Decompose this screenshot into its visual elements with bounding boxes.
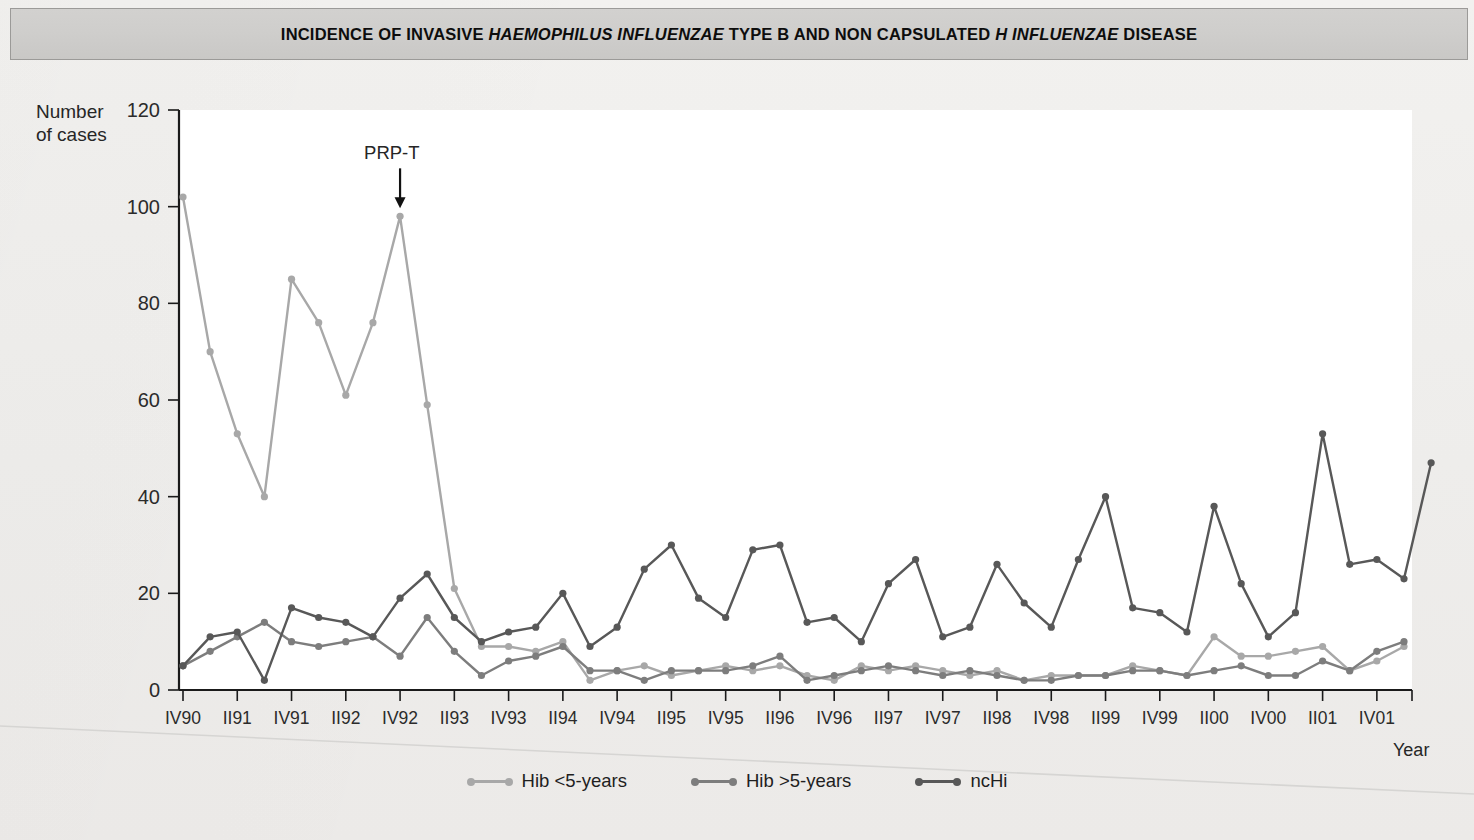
x-tick-label: IV92 [382,708,418,728]
data-point [559,590,566,597]
data-point [1156,609,1163,616]
data-point [641,566,648,573]
data-point [288,276,295,283]
series-hib-5-years [179,614,1407,684]
data-point [1129,604,1136,611]
data-point [885,580,892,587]
data-point [668,667,675,674]
title-prefix: INCIDENCE OF INVASIVE [281,25,489,43]
data-point [1265,672,1272,679]
data-point [1183,628,1190,635]
legend-label: Hib <5-years [522,770,627,792]
data-point [478,638,485,645]
x-tick-label: IV96 [816,708,852,728]
data-point [1238,653,1245,660]
data-point [369,319,376,326]
data-point [586,643,593,650]
x-tick-label: IV98 [1033,708,1069,728]
y-axis-ticks [168,110,179,690]
y-tick-label: 60 [138,389,160,411]
data-point [451,585,458,592]
data-point [396,653,403,660]
data-point [1400,638,1407,645]
data-point [1319,643,1326,650]
data-point [912,667,919,674]
data-point [505,628,512,635]
data-point [451,614,458,621]
data-point [261,677,268,684]
data-point [776,541,783,548]
data-point [505,643,512,650]
data-point [1238,662,1245,669]
data-point [1210,633,1217,640]
data-point [207,633,214,640]
x-tick-label: IV99 [1142,708,1178,728]
data-point [1048,677,1055,684]
data-point [424,570,431,577]
data-point [1048,624,1055,631]
x-tick-label: IV93 [491,708,527,728]
data-point [939,633,946,640]
data-point [803,677,810,684]
data-point [966,667,973,674]
data-point [831,672,838,679]
data-point [614,667,621,674]
data-point [342,619,349,626]
data-point [1373,648,1380,655]
data-point [396,595,403,602]
data-point [858,667,865,674]
data-point [207,348,214,355]
data-point [179,662,186,669]
data-point [234,628,241,635]
data-point [1292,672,1299,679]
data-point [993,672,1000,679]
data-point [776,662,783,669]
data-point [912,556,919,563]
data-point [315,643,322,650]
data-point [1319,657,1326,664]
x-tick-label: IV90 [165,708,201,728]
data-point [424,401,431,408]
legend-item[interactable]: ncHi [915,770,1007,792]
chart-legend: Hib <5-yearsHib >5-yearsncHi [0,770,1474,792]
data-point [369,633,376,640]
y-tick-label: 0 [149,679,160,701]
x-tick-label: IV95 [708,708,744,728]
data-point [1021,599,1028,606]
x-tick-label: II95 [657,708,686,728]
x-tick-label: II97 [874,708,903,728]
data-point [586,667,593,674]
data-point [478,672,485,679]
y-tick-label: 100 [127,196,160,218]
data-point [722,614,729,621]
x-axis-tick-labels: IV90II91IV91II92IV92II93IV93II94IV94II95… [165,708,1395,728]
data-point [451,648,458,655]
figure-page: INCIDENCE OF INVASIVE HAEMOPHILUS INFLUE… [0,0,1474,840]
data-point [288,638,295,645]
legend-swatch-icon [691,774,737,788]
data-point [939,672,946,679]
y-tick-label: 120 [127,99,160,121]
data-point [776,653,783,660]
data-point [1346,667,1353,674]
data-point [1265,653,1272,660]
data-point [1102,672,1109,679]
data-point [831,614,838,621]
data-point [1238,580,1245,587]
data-point [261,493,268,500]
page-title: INCIDENCE OF INVASIVE HAEMOPHILUS INFLUE… [281,25,1197,44]
y-tick-label: 20 [138,582,160,604]
data-point [288,604,295,611]
data-point [532,653,539,660]
x-tick-label: II99 [1091,708,1120,728]
data-point [885,662,892,669]
data-point [315,319,322,326]
data-point [1400,575,1407,582]
legend-item[interactable]: Hib >5-years [691,770,851,792]
x-tick-label: IV91 [274,708,310,728]
legend-item[interactable]: Hib <5-years [467,770,627,792]
series-line [183,197,1404,680]
series-nchi [179,430,1434,684]
data-point [1156,667,1163,674]
x-tick-label: II93 [440,708,469,728]
